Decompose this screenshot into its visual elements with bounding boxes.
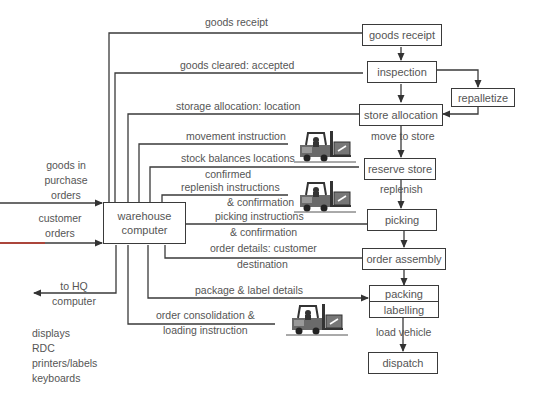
flow-replenish-instructions: replenish instructions xyxy=(181,181,280,194)
label-move-to-store: move to store xyxy=(371,130,435,143)
input-goods-in-line-3: orders xyxy=(36,188,96,203)
input-goods-in-line-2: purchase xyxy=(36,173,96,188)
forklift-icon xyxy=(286,304,348,335)
label-load-vehicle: load vehicle xyxy=(376,326,431,339)
flow-order-consolidation-2: loading instruction xyxy=(163,324,248,337)
box-dispatch: dispatch xyxy=(368,352,438,374)
box-repalletize: repalletize xyxy=(451,88,515,107)
flow-goods-cleared: goods cleared: accepted xyxy=(180,59,294,72)
flow-goods-receipt: goods receipt xyxy=(205,16,268,29)
warehouse-computer: warehouse computer xyxy=(103,202,186,244)
input-goods-in-line-1: goods in xyxy=(36,158,96,173)
input-customer-orders: customer orders xyxy=(30,211,90,241)
output-to-hq: to HQ computer xyxy=(44,279,104,309)
box-labelling: labelling xyxy=(369,301,439,318)
flow-confirmed: confirmed xyxy=(205,168,251,181)
box-inspection: inspection xyxy=(367,61,437,83)
peripheral-item: printers/labels xyxy=(32,356,97,371)
box-picking: picking xyxy=(367,209,437,231)
flow-package-label: package & label details xyxy=(195,284,303,297)
label-replenish: replenish xyxy=(380,183,423,196)
box-order-assembly: order assembly xyxy=(362,248,446,270)
box-goods-receipt: goods receipt xyxy=(362,24,442,46)
box-store-allocation: store allocation xyxy=(359,104,443,126)
output-hq-line-1: to HQ xyxy=(44,279,104,294)
flow-movement-instruction: movement instruction xyxy=(186,130,286,143)
box-reserve-store: reserve store xyxy=(364,158,436,180)
peripheral-item: displays xyxy=(32,326,97,341)
flow-picking-instructions: picking instructions xyxy=(215,210,304,223)
flow-order-consolidation-1: order consolidation & xyxy=(156,309,255,322)
peripheral-item: keyboards xyxy=(32,371,97,386)
input-customer-line-2: orders xyxy=(30,226,90,241)
forklift-icon xyxy=(294,181,356,212)
peripheral-item: RDC xyxy=(32,341,97,356)
flow-order-details-2: destination xyxy=(237,258,288,271)
flow-picking-confirmation: & confirmation xyxy=(230,226,297,239)
box-packing: packing xyxy=(369,285,439,302)
input-goods-in: goods in purchase orders xyxy=(36,158,96,203)
flow-order-details-1: order details: customer xyxy=(210,242,317,255)
flow-stock-balances: stock balances locations xyxy=(181,152,295,165)
output-hq-line-2: computer xyxy=(44,294,104,309)
forklift-icon xyxy=(294,131,356,162)
flow-replenish-confirmation: & confirmation xyxy=(227,196,294,209)
peripherals-list: displays RDC printers/labels keyboards xyxy=(32,326,97,386)
input-customer-line-1: customer xyxy=(30,211,90,226)
warehouse-computer-label: warehouse computer xyxy=(115,209,175,237)
flow-storage-allocation: storage allocation: location xyxy=(176,100,300,113)
